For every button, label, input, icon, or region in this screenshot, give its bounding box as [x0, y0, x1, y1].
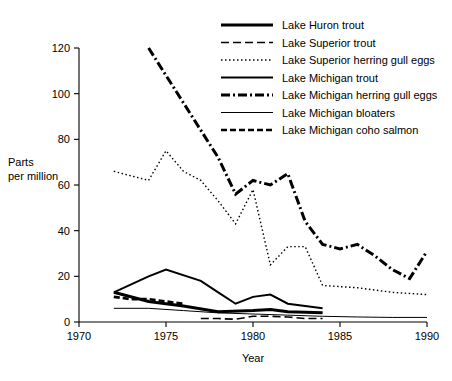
- legend-label: Lake Michigan herring gull eggs: [282, 89, 438, 101]
- legend-label: Lake Superior trout: [282, 37, 376, 49]
- y-tick-label: 80: [58, 133, 70, 145]
- series-line: [114, 269, 323, 308]
- y-tick-label: 120: [52, 42, 70, 54]
- x-tick-label: 1985: [328, 330, 352, 342]
- y-axis-title-line: per million: [8, 170, 58, 182]
- y-axis-title-line: Parts: [8, 156, 34, 168]
- x-tick-label: 1980: [241, 330, 265, 342]
- axis-titles: YearPartsper million: [8, 156, 264, 364]
- legend-label: Lake Michigan trout: [282, 72, 378, 84]
- x-tick-label: 1975: [154, 330, 178, 342]
- legend-label: Lake Michigan coho salmon: [282, 124, 418, 136]
- chart-legend: Lake Huron troutLake Superior troutLake …: [221, 19, 438, 136]
- line-chart: 020406080100120 19701975198019851990 Yea…: [0, 0, 452, 381]
- legend-label: Lake Michigan bloaters: [282, 107, 396, 119]
- x-tick-label: 1970: [67, 330, 91, 342]
- x-axis-title: Year: [242, 352, 265, 364]
- series-line: [114, 151, 427, 295]
- y-tick-label: 20: [58, 270, 70, 282]
- series-line: [114, 292, 323, 313]
- chart-container: 020406080100120 19701975198019851990 Yea…: [0, 0, 452, 381]
- legend-label: Lake Superior herring gull eggs: [282, 54, 435, 66]
- legend-label: Lake Huron trout: [282, 19, 364, 31]
- x-axis: 19701975198019851990: [67, 322, 439, 342]
- y-tick-label: 40: [58, 225, 70, 237]
- y-tick-label: 100: [52, 88, 70, 100]
- series-line: [201, 316, 323, 319]
- y-tick-label: 60: [58, 179, 70, 191]
- x-tick-label: 1990: [415, 330, 439, 342]
- y-tick-label: 0: [64, 316, 70, 328]
- y-axis: 020406080100120: [52, 42, 79, 328]
